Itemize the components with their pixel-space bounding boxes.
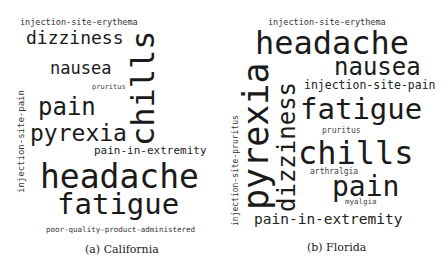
word-pyrexia: pyrexia [30, 122, 127, 145]
word-dizziness: dizziness [275, 82, 299, 212]
word-nausea: nausea [50, 60, 111, 77]
word-pyrexia: pyrexia [239, 62, 274, 210]
word-nausea: nausea [334, 55, 421, 79]
word-injection-site-pain: injection-site-pain [304, 80, 436, 92]
word-poor-quality-product-administered: poor-quality-product-administered [46, 226, 195, 234]
word-chills: chills [298, 137, 414, 169]
word-dizziness: dizziness [26, 29, 124, 47]
word-injection-site-pruritus: injection-site-pruritus [232, 115, 240, 226]
caption-florida: (b) Florida [307, 241, 366, 254]
wordcloud-florida: injection-site-erythema headache nausea … [222, 0, 445, 273]
word-fatigue: fatigue [57, 190, 179, 219]
word-pain: pain [38, 95, 96, 119]
word-pain-in-extremity: pain-in-extremity [94, 145, 207, 156]
word-myalgia: myalgia [345, 198, 377, 206]
word-pruritus: pruritus [92, 84, 126, 91]
word-chills: chills [127, 30, 159, 146]
word-injection-site-pain: injection-site-pain [17, 90, 26, 193]
word-injection-site-erythema: injection-site-erythema [20, 18, 138, 27]
caption-california: (a) California [85, 243, 159, 256]
wordcloud-california: injection-site-erythema dizziness chills… [0, 0, 222, 273]
word-pain-in-extremity: pain-in-extremity [254, 212, 402, 227]
word-fatigue: fatigue [300, 95, 422, 124]
